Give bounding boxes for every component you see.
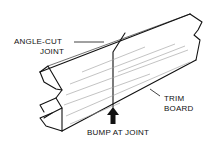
board-top-edge	[40, 14, 190, 72]
trim-board-drawing	[0, 0, 213, 144]
board-left-profile	[40, 66, 62, 131]
trim-board-leader	[150, 89, 160, 96]
board-right-profile	[190, 14, 202, 60]
trim-board-label-line2: BOARD	[164, 104, 193, 113]
angle-cut-label-line2: JOINT	[40, 47, 64, 56]
bump-arrow-icon	[107, 107, 119, 124]
trim-board-label-line1: TRIM	[164, 94, 184, 103]
bump-at-joint-label: BUMP AT JOINT	[87, 128, 149, 137]
diagram-canvas: ANGLE-CUT JOINT TRIM BOARD BUMP AT JOINT	[0, 0, 213, 144]
angle-cut-label-line1: ANGLE-CUT	[14, 37, 62, 46]
